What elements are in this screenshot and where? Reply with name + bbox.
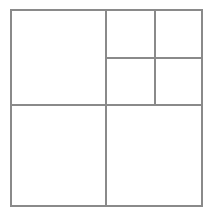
region-bottom-left xyxy=(11,105,106,206)
region-top-left-large xyxy=(11,10,106,105)
region-top-mid-upper xyxy=(106,10,155,58)
region-bottom-right xyxy=(106,105,202,206)
region-mid-right xyxy=(155,58,202,105)
region-top-right-upper xyxy=(155,10,202,58)
diagram-canvas xyxy=(0,0,212,216)
region-mid-center xyxy=(106,58,155,105)
rectangle-partition-diagram xyxy=(0,0,212,216)
